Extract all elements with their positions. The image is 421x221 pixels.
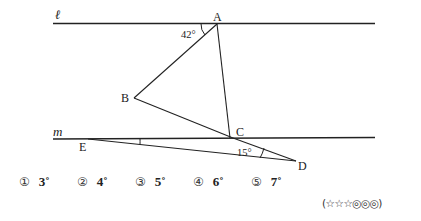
choice-5[interactable]: ⑤ 7˚ bbox=[251, 174, 309, 190]
choice-number: ④ bbox=[193, 175, 204, 189]
choice-3[interactable]: ③ 5˚ bbox=[135, 174, 193, 190]
choice-number: ① bbox=[19, 175, 30, 189]
angle-A-label: 42° bbox=[181, 29, 196, 40]
choice-2[interactable]: ② 4˚ bbox=[77, 174, 135, 190]
line-l-label: ℓ bbox=[55, 7, 61, 22]
line-m-label: m bbox=[53, 124, 62, 139]
choice-value: 3˚ bbox=[39, 174, 50, 190]
point-A-label: A bbox=[213, 10, 222, 24]
choice-number: ③ bbox=[135, 175, 146, 189]
point-D-label: D bbox=[298, 159, 307, 173]
choice-value: 6˚ bbox=[213, 174, 224, 190]
angle-D-label: 15° bbox=[237, 147, 252, 158]
choice-value: 5˚ bbox=[155, 174, 166, 190]
choice-1[interactable]: ① 3˚ bbox=[19, 174, 77, 190]
angle-arc-A bbox=[201, 24, 205, 36]
line-m bbox=[53, 138, 375, 140]
segment-BC bbox=[134, 98, 233, 138]
angle-arc-D bbox=[260, 148, 264, 158]
point-E-label: E bbox=[79, 140, 86, 154]
choice-value: 7˚ bbox=[271, 174, 282, 190]
difficulty-rating: (☆☆☆◎◎◎) bbox=[322, 197, 382, 209]
choice-value: 4˚ bbox=[97, 174, 108, 190]
point-B-label: B bbox=[121, 91, 129, 105]
segment-AC bbox=[217, 24, 230, 138]
choice-number: ⑤ bbox=[251, 175, 262, 189]
choice-number: ② bbox=[77, 175, 88, 189]
answer-choices: ① 3˚ ② 4˚ ③ 5˚ ④ 6˚ ⑤ 7˚ bbox=[19, 174, 309, 190]
point-C-label: C bbox=[236, 125, 244, 139]
choice-4[interactable]: ④ 6˚ bbox=[193, 174, 251, 190]
